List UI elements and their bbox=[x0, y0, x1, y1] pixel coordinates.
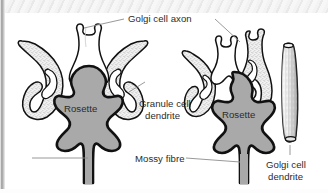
left-glomerulus: Rosette bbox=[18, 24, 148, 184]
label-mossy-fibre: Mossy fibre bbox=[135, 153, 185, 164]
mossy-fibre-stalk-left bbox=[85, 152, 92, 184]
golgi-dendrite-cylinder-bottom bbox=[285, 137, 295, 142]
cerebellar-glomerulus-diagram: Rosette Rosette bbox=[0, 0, 328, 193]
leader-mossy-fibre-right bbox=[186, 158, 240, 162]
golgi-cell-dendrite-cylinder bbox=[282, 43, 298, 142]
golgi-dendrite-cylinder-top bbox=[284, 43, 293, 47]
label-golgi-cell-dendrite-line2: dendrite bbox=[268, 171, 303, 182]
label-granule-cell-dendrite-line2: dendrite bbox=[145, 110, 180, 121]
label-granule-cell-dendrite-line1: Granule cell bbox=[139, 98, 191, 109]
label-golgi-cell-dendrite-line1: Golgi cell bbox=[266, 159, 306, 170]
golgi-dendrite-cylinder-shading bbox=[282, 43, 298, 142]
rosette-label-left: Rosette bbox=[64, 103, 97, 114]
mossy-fibre-stalk-right bbox=[240, 154, 248, 184]
leader-golgi-cell-axon-left bbox=[84, 19, 124, 28]
label-golgi-cell-axon: Golgi cell axon bbox=[128, 13, 192, 24]
rosette-label-right: Rosette bbox=[222, 109, 255, 120]
figure-canvas: Rosette Rosette bbox=[0, 0, 328, 193]
